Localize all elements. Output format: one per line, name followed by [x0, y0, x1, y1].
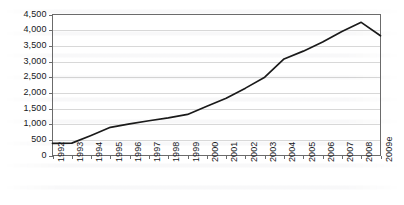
x-axis-tick-label: 2002: [250, 141, 259, 161]
data-line-series: [53, 22, 381, 143]
x-axis-tick-label: 2003: [269, 141, 278, 161]
plot-area-frame: [53, 15, 381, 156]
x-axis-tick-label: 2007: [346, 141, 355, 161]
y-axis-tick-label: 1,000: [0, 119, 47, 128]
x-axis-tick-label: 1996: [134, 141, 143, 161]
x-axis-tick-label: 1992: [57, 141, 66, 161]
chart-canvas: [0, 0, 404, 205]
y-axis-tick-label: 500: [0, 135, 47, 144]
x-axis-tick-label: 2004: [288, 141, 297, 161]
x-axis-tick-label: 1999: [192, 141, 201, 161]
y-axis-tick-label: 2,500: [0, 72, 47, 81]
x-axis-tick-label: 1997: [153, 141, 162, 161]
y-axis-tick-label: 3,500: [0, 41, 47, 50]
x-axis-tick-label: 2001: [230, 141, 239, 161]
y-axis-tick-label: 3,000: [0, 57, 47, 66]
x-axis-tick-label: 2005: [308, 141, 317, 161]
line-chart-figure: 05001,0001,5002,0002,5003,0003,5004,0004…: [0, 0, 404, 205]
x-axis-tick-label: 1995: [115, 141, 124, 161]
y-axis-tick-label: 1,500: [0, 104, 47, 113]
x-axis-tick-label: 2009e: [385, 136, 394, 162]
x-axis-tick-label: 2006: [327, 141, 336, 161]
y-axis-tick-label: 0: [0, 151, 47, 160]
x-axis-tick-label: 1994: [95, 141, 104, 161]
y-axis-tick-label: 4,000: [0, 25, 47, 34]
plot-frame-group: [53, 15, 381, 156]
y-axis-ticks-group: [49, 16, 53, 157]
x-axis-tick-label: 1998: [172, 141, 181, 161]
x-axis-tick-label: 2000: [211, 141, 220, 161]
gridlines-group: [53, 31, 381, 141]
y-axis-tick-label: 4,500: [0, 10, 47, 19]
data-series-group: [53, 22, 381, 143]
x-axis-tick-label: 2008: [365, 141, 374, 161]
y-axis-tick-label: 2,000: [0, 88, 47, 97]
x-axis-tick-label: 1993: [76, 141, 85, 161]
